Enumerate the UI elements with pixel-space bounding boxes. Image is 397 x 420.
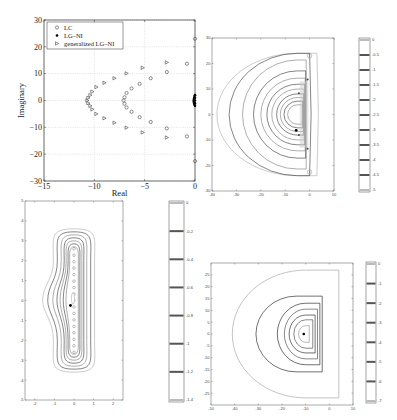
y-axis-label: Imaginary: [16, 82, 26, 118]
colorbar-tick-label: -1: [372, 67, 376, 72]
y-tick-label: 5: [207, 320, 210, 325]
y-tick-label: -20: [205, 163, 212, 168]
colorbar-tick-label: -3: [372, 127, 376, 132]
scatter-plot: −15−10−503020100−10−20−30RealImaginaryLC…: [16, 16, 197, 198]
contour-plot-bottom-right: -50-40-30-20-100102520151050-5-10-15-20-…: [204, 263, 356, 411]
y-tick-label: -25: [204, 391, 211, 396]
colorbar-tick-label: -2: [378, 301, 382, 306]
colorbar-tick-label: -2.5: [372, 112, 380, 117]
x-tick-label: 1: [92, 401, 95, 406]
x-tick-label: -30: [234, 192, 241, 197]
colorbar-bottom-left: 0-0.2-0.4-0.6-0.8-1-1.2-1.4: [169, 200, 194, 402]
colorbar-tick-label: -5: [372, 187, 376, 192]
y-tick-label: -30: [205, 188, 212, 193]
y-tick-label: -10: [204, 355, 211, 360]
colorbar-tick-label: -0.5: [372, 52, 380, 57]
series-generalized-lg-ni: [86, 61, 169, 140]
x-tick-label: -2: [33, 401, 37, 406]
y-tick-label: 25: [205, 272, 210, 277]
legend-entry: generalized LG–NI: [64, 40, 114, 47]
y-tick-label: -3: [20, 358, 24, 363]
colorbar-tick-label: -4: [372, 157, 376, 162]
colorbar-tick-label: -1: [378, 281, 382, 286]
x-tick-label: 0: [193, 182, 197, 191]
contour-plot-bottom-left: -2-1012543210-1-2-3-4-5: [20, 198, 123, 406]
colorbar-tick-label: 0: [186, 200, 189, 205]
x-tick-label: -20: [279, 406, 286, 411]
figure: −15−10−503020100−10−20−30RealImaginaryLC…: [0, 0, 397, 420]
y-tick-label: 3: [21, 238, 24, 243]
y-tick-label: 20: [205, 284, 210, 289]
x-tick-label: 10: [332, 192, 337, 197]
colorbar-top-right: 0-0.5-1-1.5-2-2.5-3-3.5-4-4.5-5: [359, 37, 380, 192]
x-tick-label: -10: [303, 406, 310, 411]
y-tick-label: −30: [29, 177, 42, 186]
colorbar-tick-label: -0.4: [186, 257, 194, 262]
y-tick-label: 0: [38, 96, 42, 105]
colorbar-tick-label: -7: [378, 398, 382, 403]
y-tick-label: 20: [206, 61, 211, 66]
contour-plot-top-right: -40-30-20-100103020100-10-20-30: [205, 35, 337, 197]
x-tick-label: -40: [232, 406, 239, 411]
y-tick-label: 15: [205, 296, 210, 301]
colorbar-tick-label: -1.2: [186, 369, 194, 374]
x-tick-label: -20: [258, 192, 265, 197]
colorbar-tick-label: -4.5: [372, 172, 380, 177]
y-tick-label: 10: [206, 86, 211, 91]
y-tick-label: 0: [207, 331, 210, 336]
y-tick-label: -1: [20, 318, 24, 323]
y-tick-label: 30: [206, 35, 211, 40]
x-tick-label: -30: [255, 406, 262, 411]
colorbar-tick-label: -1.4: [186, 397, 194, 402]
y-tick-label: -5: [206, 343, 210, 348]
colorbar-tick-label: -0.2: [186, 229, 194, 234]
series-lc: [122, 37, 197, 163]
colorbar-tick-label: -0.8: [186, 313, 194, 318]
colorbar-tick-label: -4: [378, 340, 382, 345]
colorbar-tick-label: -3.5: [372, 142, 380, 147]
y-tick-label: 4: [21, 218, 24, 223]
x-tick-label: 0: [308, 192, 311, 197]
colorbar-tick-label: -5: [378, 359, 382, 364]
y-tick-label: 0: [208, 112, 211, 117]
y-tick-label: 5: [21, 198, 24, 203]
legend: LCLG–NIgeneralized LG–NI: [47, 22, 123, 49]
y-tick-label: -2: [20, 338, 24, 343]
x-tick-label: 10: [351, 406, 356, 411]
y-tick-label: 2: [21, 258, 24, 263]
y-tick-label: 0: [21, 298, 24, 303]
y-tick-label: 20: [34, 43, 42, 52]
y-tick-label: 1: [21, 278, 24, 283]
colorbar-tick-label: -1.5: [372, 82, 380, 87]
colorbar-tick-label: 0: [378, 261, 381, 266]
x-tick-label: -10: [282, 192, 289, 197]
colorbar-tick-label: -6: [378, 379, 382, 384]
y-tick-label: 10: [34, 69, 42, 78]
colorbar-tick-label: -2: [372, 97, 376, 102]
y-tick-label: -4: [20, 378, 24, 383]
x-tick-label: 0: [328, 406, 331, 411]
colorbar-tick-label: 0: [372, 37, 375, 42]
colorbar-tick-label: -1: [186, 341, 190, 346]
x-axis-label: Real: [112, 188, 128, 198]
colorbar-tick-label: -0.6: [186, 285, 194, 290]
y-tick-label: -15: [204, 367, 211, 372]
y-tick-label: -10: [205, 137, 212, 142]
y-tick-label: -20: [204, 379, 211, 384]
x-tick-label: −10: [88, 182, 101, 191]
legend-entry: LC: [64, 24, 72, 31]
y-tick-label: −20: [29, 150, 42, 159]
y-tick-label: 30: [34, 16, 42, 25]
colorbar-tick-label: -3: [378, 320, 382, 325]
x-tick-label: -50: [208, 406, 215, 411]
x-tick-label: -1: [53, 401, 57, 406]
x-tick-label: 2: [112, 401, 115, 406]
y-tick-label: -5: [20, 397, 24, 402]
colorbar-bottom-right: 0-1-2-3-4-5-6-7: [366, 261, 382, 403]
legend-entry: LG–NI: [64, 32, 83, 39]
y-tick-label: 10: [205, 308, 210, 313]
x-tick-label: 0: [73, 401, 76, 406]
x-tick-label: −5: [140, 182, 149, 191]
y-tick-label: −10: [29, 123, 42, 132]
